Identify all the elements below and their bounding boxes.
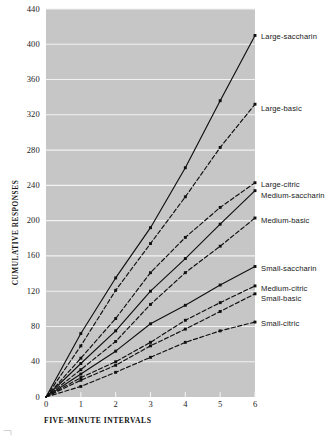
series-label-small-saccharin: Small-saccharin (261, 264, 317, 273)
y-tick-label: 400 (2, 40, 40, 49)
x-tick-label: 0 (36, 399, 56, 409)
x-tick-label: 5 (210, 399, 230, 409)
y-tick-label: 360 (2, 75, 40, 84)
y-tick-label: 200 (2, 216, 40, 225)
series-label-medium-saccharin: Medium-saccharin (261, 191, 325, 200)
x-axis-title: FIVE-MINUTE INTERVALS (44, 416, 234, 425)
series-label-small-citric: Small-citric (261, 319, 299, 328)
series-label-medium-citric: Medium-citric (261, 284, 307, 293)
y-axis-title: CUMULATIVE RESPONSES (11, 158, 20, 308)
series-label-small-basic: Small-basic (261, 294, 301, 303)
y-tick-label: 40 (2, 357, 40, 366)
y-tick-label: 120 (2, 287, 40, 296)
y-tick-label: 80 (2, 322, 40, 331)
series-label-large-basic: Large-basic (261, 104, 302, 113)
y-tick-label: 0 (2, 393, 40, 402)
series-label-medium-basic: Medium-basic (261, 216, 309, 225)
series-label-large-saccharin: Large-saccharin (261, 32, 317, 41)
y-tick-label: 160 (2, 251, 40, 260)
y-tick-label: 320 (2, 110, 40, 119)
x-tick-label: 4 (175, 399, 195, 409)
plot-area (46, 9, 255, 397)
y-tick-label: 240 (2, 181, 40, 190)
y-tick-label: 280 (2, 146, 40, 155)
series-label-large-citric: Large-citric (261, 180, 300, 189)
corner-scan-artifact (3, 430, 12, 436)
x-tick-label: 1 (71, 399, 91, 409)
x-tick-label: 3 (141, 399, 161, 409)
x-tick-label: 2 (106, 399, 126, 409)
y-tick-label: 440 (2, 5, 40, 14)
x-tick-label: 6 (245, 399, 265, 409)
chart-figure: 04080120160200240280320360400440 0123456… (0, 0, 333, 438)
